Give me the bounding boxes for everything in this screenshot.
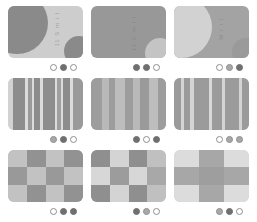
- pattern-thumbnail[interactable]: [174, 150, 249, 202]
- checker-tile: [129, 167, 148, 184]
- stripe-band: [149, 78, 158, 130]
- checker-tile: [27, 150, 46, 167]
- checker-tile: [91, 167, 110, 184]
- indicator-dot-mid[interactable]: [216, 208, 223, 215]
- indicator-dots: [8, 62, 83, 72]
- indicator-dot-filled[interactable]: [236, 64, 243, 71]
- checker-tile: [199, 167, 224, 184]
- checker-pattern: [91, 150, 166, 202]
- indicator-dots: [174, 206, 249, 216]
- stripe-band: [212, 78, 222, 130]
- checker-tile: [46, 185, 65, 202]
- indicator-dot-hollow[interactable]: [50, 64, 57, 71]
- indicator-dot-filled[interactable]: [60, 208, 67, 215]
- checker-tile: [8, 185, 27, 202]
- checker-tile: [129, 150, 148, 167]
- grid-cell[interactable]: [170, 76, 253, 148]
- indicator-dots: [91, 134, 166, 144]
- stripe-band: [115, 78, 125, 130]
- pattern-thumbnail[interactable]: [91, 150, 166, 202]
- indicator-dot-filled[interactable]: [143, 64, 150, 71]
- grid-cell[interactable]: [87, 76, 170, 148]
- indicator-dot-filled[interactable]: [70, 208, 77, 215]
- checker-tile: [110, 150, 129, 167]
- indicator-dot-hollow[interactable]: [153, 208, 160, 215]
- stripe-band: [225, 78, 239, 130]
- indicator-dots: [174, 62, 249, 72]
- grid-cell[interactable]: [4, 148, 87, 220]
- indicator-dot-mid[interactable]: [50, 136, 57, 143]
- indicator-dot-filled[interactable]: [60, 64, 67, 71]
- indicator-dot-filled[interactable]: [133, 208, 140, 215]
- indicator-dot-filled[interactable]: [153, 136, 160, 143]
- grid-cell[interactable]: 11 C m l l: [87, 4, 170, 76]
- indicator-dot-hollow[interactable]: [50, 208, 57, 215]
- stripe-band: [133, 78, 140, 130]
- checker-pattern: [174, 150, 249, 202]
- checker-tile: [91, 185, 110, 202]
- checker-tile: [110, 167, 129, 184]
- checker-tile: [110, 185, 129, 202]
- pattern-thumbnail[interactable]: 11 S m i l: [8, 6, 83, 58]
- checker-tile: [199, 150, 224, 167]
- grid-cell[interactable]: [170, 148, 253, 220]
- indicator-dots: [91, 62, 166, 72]
- indicator-dot-mid[interactable]: [226, 136, 233, 143]
- checker-tile: [174, 167, 199, 184]
- indicator-dot-mid[interactable]: [226, 64, 233, 71]
- indicator-dot-filled[interactable]: [226, 208, 233, 215]
- stripe-band: [242, 78, 250, 130]
- grid-cell[interactable]: [87, 148, 170, 220]
- pattern-thumbnail[interactable]: [91, 78, 166, 130]
- indicator-dot-mid[interactable]: [143, 208, 150, 215]
- indicator-dot-mid[interactable]: [236, 136, 243, 143]
- checker-tile: [199, 185, 224, 202]
- grid-cell[interactable]: 11 S m i l: [4, 4, 87, 76]
- stripe-pattern: [8, 78, 83, 130]
- indicator-dot-hollow[interactable]: [236, 208, 243, 215]
- pattern-thumbnail[interactable]: [8, 78, 83, 130]
- checker-tile: [174, 185, 199, 202]
- checker-tile: [64, 185, 83, 202]
- indicator-dot-filled[interactable]: [133, 136, 140, 143]
- indicator-dot-hollow[interactable]: [70, 64, 77, 71]
- indicator-dot-hollow[interactable]: [143, 136, 150, 143]
- checker-tile: [224, 185, 249, 202]
- stripe-band: [102, 78, 110, 130]
- indicator-dots: [91, 206, 166, 216]
- pattern-thumbnail[interactable]: [8, 150, 83, 202]
- checker-tile: [147, 185, 166, 202]
- checker-tile: [27, 167, 46, 184]
- indicator-dots: [8, 134, 83, 144]
- stripe-band: [174, 78, 181, 130]
- checker-pattern: [8, 150, 83, 202]
- pattern-thumbnail[interactable]: M r i l: [174, 6, 249, 58]
- indicator-dot-filled[interactable]: [133, 64, 140, 71]
- indicator-dot-hollow[interactable]: [216, 64, 223, 71]
- checker-tile: [224, 167, 249, 184]
- stripe-band: [73, 78, 84, 130]
- pattern-thumbnail[interactable]: [174, 78, 249, 130]
- checker-tile: [147, 167, 166, 184]
- checker-tile: [224, 150, 249, 167]
- stripe-pattern: [91, 78, 166, 130]
- stripe-band: [125, 78, 133, 130]
- indicator-dot-filled[interactable]: [60, 136, 67, 143]
- small-circle-bottom-right-shape: [64, 36, 83, 58]
- checker-tile: [8, 167, 27, 184]
- stripe-band: [91, 78, 102, 130]
- checker-tile: [64, 150, 83, 167]
- indicator-dots: [8, 206, 83, 216]
- checker-tile: [64, 167, 83, 184]
- thumbnail-grid: 11 S m i l11 C m l lM r i l: [0, 0, 257, 222]
- indicator-dot-hollow[interactable]: [70, 136, 77, 143]
- grid-cell[interactable]: [4, 76, 87, 148]
- indicator-dot-hollow[interactable]: [216, 136, 223, 143]
- indicator-dots: [174, 134, 249, 144]
- checker-tile: [174, 150, 199, 167]
- stripe-band: [43, 78, 55, 130]
- pattern-thumbnail[interactable]: 11 C m l l: [91, 6, 166, 58]
- indicator-dot-hollow[interactable]: [153, 64, 160, 71]
- checker-tile: [129, 185, 148, 202]
- grid-cell[interactable]: M r i l: [170, 4, 253, 76]
